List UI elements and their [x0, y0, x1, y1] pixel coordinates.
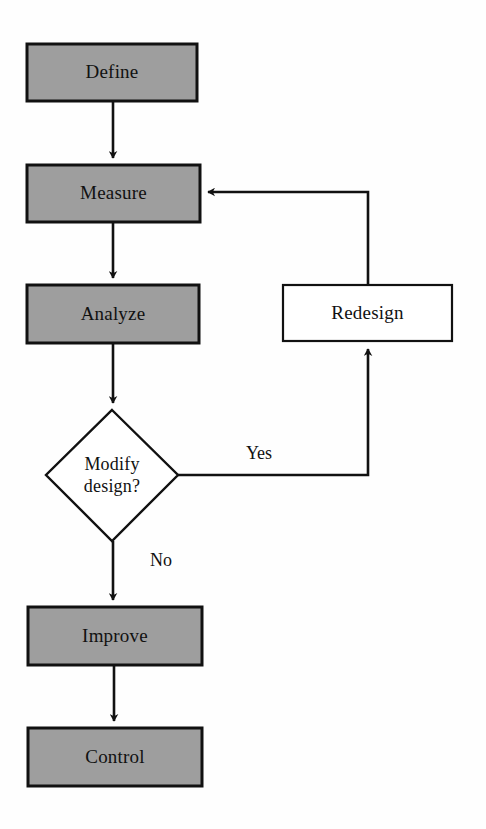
- node-measure-shape[interactable]: [27, 165, 200, 222]
- node-redesign-shape[interactable]: [283, 285, 452, 341]
- edge-redesign-to-measure: [208, 192, 368, 285]
- node-define-shape[interactable]: [27, 44, 197, 101]
- edge-modify-design-yes-to-redesign: [178, 349, 368, 475]
- node-modify-design-shape[interactable]: [46, 410, 178, 541]
- node-improve-shape[interactable]: [28, 607, 202, 665]
- node-control-shape[interactable]: [28, 728, 202, 786]
- flowchart-canvas: [0, 0, 486, 829]
- node-analyze-shape[interactable]: [27, 285, 199, 343]
- flowchart-diagram: Define Measure Analyze Modify design? Re…: [0, 0, 486, 829]
